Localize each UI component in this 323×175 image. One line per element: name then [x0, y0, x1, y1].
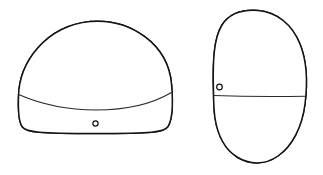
right-object-suspension-hole-icon [217, 84, 223, 90]
right-object-outline-overstroke [213, 10, 306, 163]
right-object [213, 10, 306, 163]
left-object [18, 21, 172, 133]
illustration-canvas [0, 0, 323, 175]
illustration-figure [0, 0, 323, 175]
left-object-suspension-hole-icon [93, 121, 98, 126]
left-object-outline-overstroke [18, 21, 172, 133]
